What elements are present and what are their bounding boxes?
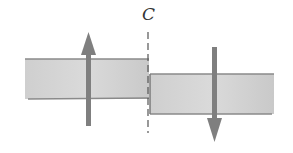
section-label: C	[142, 4, 155, 24]
